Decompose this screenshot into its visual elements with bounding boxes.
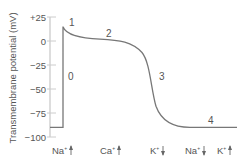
ion-label-na-down: Na+ — [185, 145, 206, 156]
svg-text:Na+: Na+ — [185, 145, 200, 156]
y-axis-title: Transmembrane potential (mV) — [7, 12, 18, 143]
y-tick-label: −75 — [30, 108, 46, 119]
arrow-up-icon — [117, 145, 121, 155]
phase-label-3: 3 — [159, 71, 165, 82]
phase-label-2: 2 — [106, 28, 112, 39]
arrow-down-icon — [202, 146, 206, 156]
y-tick-label: 0 — [41, 36, 46, 47]
arrow-up-icon — [228, 145, 232, 155]
y-tick-label: −25 — [30, 60, 46, 71]
phase-label-1: 1 — [69, 17, 75, 28]
arrow-up-icon — [69, 145, 73, 155]
svg-text:K+: K+ — [150, 145, 159, 156]
phase-label-0: 0 — [68, 71, 74, 82]
ion-label-na-up: Na+ — [52, 145, 73, 156]
ion-label-ca-up: Ca+ — [100, 145, 121, 156]
y-axis-label: Transmembrane potential (mV) — [7, 12, 18, 143]
y-axis: +250−25−50−75−100 — [25, 12, 56, 143]
ion-labels: Na+Ca+K+Na+K+ — [52, 145, 232, 156]
ion-label-k-down: K+ — [150, 145, 165, 156]
svg-text:K+: K+ — [217, 145, 226, 156]
chart-canvas: +250−25−50−75−100 Transmembrane potentia… — [0, 0, 250, 165]
svg-text:Na+: Na+ — [52, 145, 67, 156]
y-tick-label: −100 — [25, 132, 46, 143]
action-potential-chart: +250−25−50−75−100 Transmembrane potentia… — [0, 0, 250, 165]
svg-text:Ca+: Ca+ — [100, 145, 115, 156]
phase-label-4: 4 — [208, 115, 214, 126]
series-line — [50, 27, 237, 128]
ion-label-k-up: K+ — [217, 145, 232, 156]
arrow-down-icon — [161, 146, 165, 156]
action-potential-curve — [50, 27, 237, 128]
y-tick-label: +25 — [30, 12, 46, 23]
phase-labels: 01234 — [68, 17, 214, 126]
y-tick-label: −50 — [30, 84, 46, 95]
